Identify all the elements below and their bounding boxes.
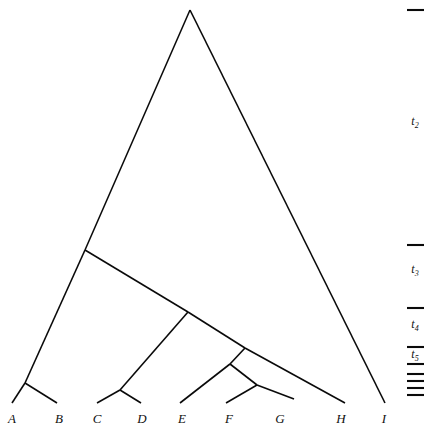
time-axis-ticks: [407, 10, 424, 395]
tree-branch: [180, 364, 230, 403]
tree-branch: [188, 312, 245, 348]
tree-branch: [230, 364, 257, 385]
time-label-subscript: 3: [415, 269, 419, 278]
tree-branch: [226, 385, 257, 403]
time-label-subscript: 2: [415, 121, 419, 130]
time-label-subscript: 5: [415, 354, 419, 363]
taxon-label-c: C: [93, 411, 102, 427]
taxon-label-b: B: [55, 411, 63, 427]
time-label-subscript: 4: [415, 324, 419, 333]
time-label-t5: t5: [411, 347, 418, 363]
taxon-label-h: H: [336, 411, 345, 427]
taxon-label-i: I: [382, 411, 386, 427]
tree-branch: [190, 10, 385, 403]
taxon-label-d: D: [137, 411, 146, 427]
tree-branch: [120, 390, 141, 403]
phylogenetic-tree-figure: ABCDEFGHI t2t3t4t5: [0, 0, 428, 428]
tree-branch: [245, 348, 345, 403]
time-label-t2: t2: [411, 114, 418, 130]
tree-branch: [25, 383, 57, 403]
tree-branch: [12, 383, 25, 403]
time-label-t3: t3: [411, 262, 418, 278]
tree-branch: [230, 348, 245, 364]
tree-canvas: [0, 0, 428, 428]
tree-branch: [97, 390, 120, 403]
tree-branches: [12, 10, 385, 403]
tree-branch: [257, 385, 294, 399]
taxon-label-e: E: [178, 411, 186, 427]
taxon-label-a: A: [8, 411, 16, 427]
tree-branch: [85, 250, 188, 312]
taxon-label-g: G: [275, 411, 284, 427]
taxon-label-f: F: [225, 411, 233, 427]
time-label-t4: t4: [411, 317, 418, 333]
tree-branch: [25, 250, 85, 383]
tree-branch: [85, 10, 190, 250]
tree-branch: [120, 312, 188, 390]
